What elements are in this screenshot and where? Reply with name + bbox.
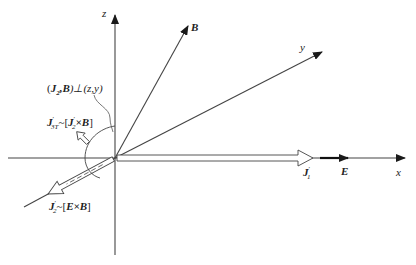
leader-line	[94, 95, 113, 132]
e-vector-label: E	[341, 166, 348, 177]
y-axis	[115, 52, 322, 158]
z-axis-label: z	[102, 8, 106, 19]
j2-hollow-arrow	[45, 153, 117, 200]
y-axis-label: y	[300, 42, 305, 53]
diagram-svg	[0, 0, 416, 265]
b-vector-label: B	[191, 22, 198, 33]
j2-annotation: J′2~[E×B]	[49, 200, 91, 215]
perpendicular-annotation: (J2,B)⊥(z,y)	[47, 83, 103, 97]
j1-hollow-arrow	[117, 150, 313, 166]
x-axis-label: x	[396, 167, 401, 178]
vector-diagram: z y x B E J′1 (J2,B)⊥(z,y) J′3T~[J′2×B] …	[0, 0, 416, 265]
j3t-annotation: J′3T~[J′2×B]	[47, 116, 93, 131]
b-vector	[115, 26, 188, 158]
j1-label: J′1	[303, 166, 311, 181]
